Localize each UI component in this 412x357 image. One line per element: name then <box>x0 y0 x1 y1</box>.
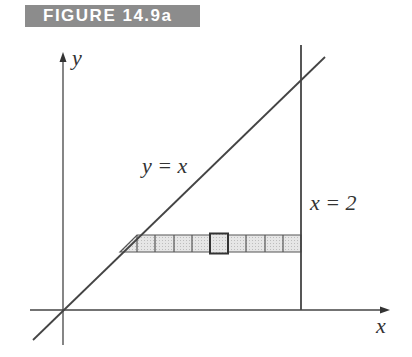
y-axis-label: y <box>70 45 82 70</box>
diag-line-label: y = x <box>140 153 188 178</box>
x-axis-label: x <box>375 313 386 338</box>
vert-line-label: x = 2 <box>309 190 357 215</box>
highlighted-cell <box>210 234 228 254</box>
diagram-canvas: y x y = x x = 2 <box>0 0 412 357</box>
line-y-equals-x <box>33 57 325 340</box>
y-axis-arrow-icon <box>60 52 67 62</box>
